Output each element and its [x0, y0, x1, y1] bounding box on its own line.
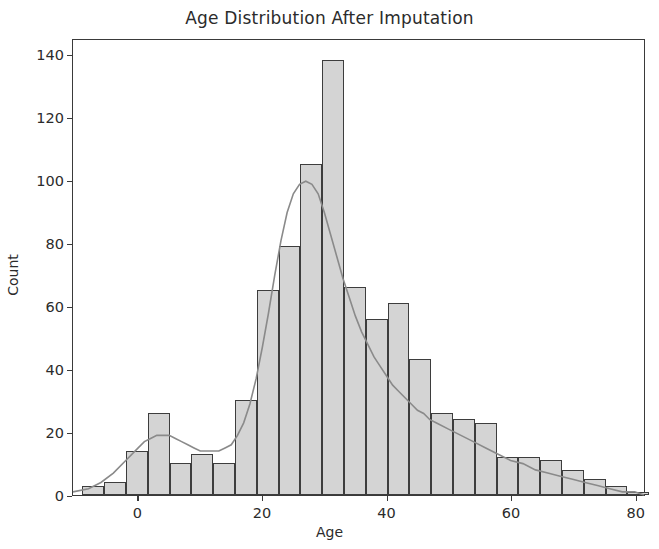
x-tick-mark: [262, 496, 263, 501]
kde-curve-path: [73, 181, 644, 495]
x-tick-label: 60: [502, 505, 520, 521]
x-tick-mark: [511, 496, 512, 501]
x-tick-mark: [636, 496, 637, 501]
y-tick-mark: [67, 496, 72, 497]
x-tick-label: 0: [133, 505, 142, 521]
kde-curve: [73, 40, 644, 495]
plot-area: [72, 39, 645, 496]
y-tick-label: 80: [46, 236, 64, 252]
y-tick-label: 140: [36, 47, 64, 63]
x-tick-label: 40: [377, 505, 395, 521]
chart-title: Age Distribution After Imputation: [0, 8, 659, 28]
y-axis-label: Count: [5, 254, 21, 296]
x-tick-label: 20: [253, 505, 271, 521]
y-tick-label: 120: [36, 110, 64, 126]
x-tick-mark: [387, 496, 388, 501]
x-tick-label: 80: [626, 505, 644, 521]
x-axis-label: Age: [0, 524, 659, 540]
figure: Age Distribution After Imputation Count …: [0, 0, 659, 549]
y-tick-label: 60: [46, 299, 64, 315]
y-tick-label: 20: [46, 425, 64, 441]
y-axis-label-wrap: Count: [14, 0, 36, 549]
y-tick-label: 40: [46, 362, 64, 378]
y-tick-label: 100: [36, 173, 64, 189]
x-tick-mark: [137, 496, 138, 501]
y-tick-label: 0: [55, 488, 64, 504]
